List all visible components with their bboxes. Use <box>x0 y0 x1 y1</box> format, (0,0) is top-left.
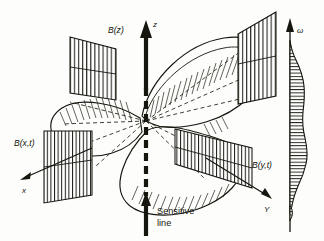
field-yt-label: B(y,t) <box>252 160 272 170</box>
axis-y-label: Y <box>264 205 270 214</box>
field-xt-label: B(x,t) <box>14 138 35 148</box>
figure-root: x Y B(z) z B(x,t) B(y,t) Sensitive line … <box>0 0 324 241</box>
axis-omega-label: ω <box>297 26 303 35</box>
sensitive-line-note-line2: line <box>157 218 171 228</box>
sensitive-line-note-line1: Sensitive <box>157 206 194 216</box>
sensitive-line-diagram: x Y B(z) z B(x,t) B(y,t) Sensitive line … <box>0 0 324 241</box>
gradient-plane-lower-left <box>44 131 92 203</box>
field-z-label: B(z) <box>108 25 124 35</box>
axis-z-label: z <box>152 20 157 29</box>
